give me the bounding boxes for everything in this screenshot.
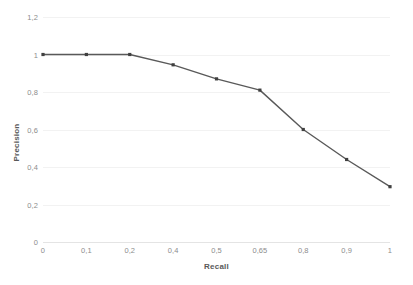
series-markers: [41, 53, 391, 188]
data-point-marker: [215, 77, 218, 80]
y-tick-label: 0,8: [27, 88, 38, 97]
precision-recall-chart: 1,2 1 0,8 0,6 0,4 0,2 0 00,10,20,40,50,6…: [0, 0, 413, 285]
y-tick-label: 1,2: [27, 13, 38, 22]
x-tick-label: 1: [388, 246, 392, 255]
data-point-marker: [302, 128, 305, 131]
x-tick-label: 0,8: [298, 246, 309, 255]
data-point-marker: [128, 53, 131, 56]
data-point-marker: [85, 53, 88, 56]
x-axis-tick-labels: 00,10,20,40,50,650,80,91: [43, 246, 390, 260]
x-tick-label: 0,4: [168, 246, 179, 255]
x-tick-label: 0,9: [341, 246, 352, 255]
series-line: [43, 55, 390, 187]
precision-series: [43, 17, 390, 242]
x-axis-title: Recall: [43, 262, 390, 271]
data-point-marker: [388, 185, 391, 188]
y-tick-label: 0,6: [27, 125, 38, 134]
y-tick-label: 0,2: [27, 200, 38, 209]
y-tick-label: 1: [34, 50, 38, 59]
data-point-marker: [345, 158, 348, 161]
y-axis-tick-labels: 1,2 1 0,8 0,6 0,4 0,2 0: [0, 17, 38, 242]
plot-area: [43, 17, 390, 242]
x-tick-label: 0,65: [252, 246, 267, 255]
x-tick-label: 0,2: [124, 246, 135, 255]
x-axis-line: [43, 242, 390, 243]
y-tick-label: 0: [34, 238, 38, 247]
y-tick-label: 0,4: [27, 163, 38, 172]
data-point-marker: [258, 89, 261, 92]
x-tick-label: 0,5: [211, 246, 222, 255]
x-tick-label: 0: [41, 246, 45, 255]
data-point-marker: [172, 63, 175, 66]
data-point-marker: [41, 53, 44, 56]
x-tick-label: 0,1: [81, 246, 92, 255]
